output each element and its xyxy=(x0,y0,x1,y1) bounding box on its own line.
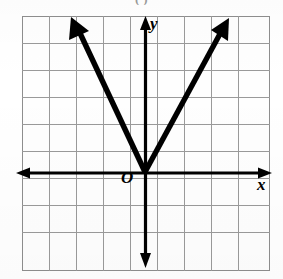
origin-label: O xyxy=(121,169,133,186)
graph-left-branch xyxy=(79,31,145,172)
plot-overlay xyxy=(0,0,283,279)
graph-right-branch xyxy=(145,32,221,172)
y-axis xyxy=(140,16,151,268)
x-axis-left-arrowhead xyxy=(16,168,30,179)
x-axis-label: x xyxy=(257,176,266,193)
absolute-value-graph xyxy=(69,17,229,172)
y-axis-bottom-arrowhead xyxy=(140,253,151,268)
y-axis-label: y xyxy=(150,15,158,32)
graph-screenshot: ( ) y x O xyxy=(0,0,283,279)
